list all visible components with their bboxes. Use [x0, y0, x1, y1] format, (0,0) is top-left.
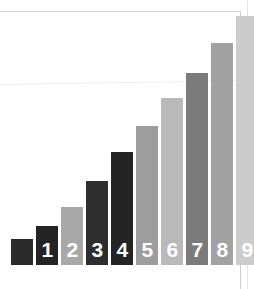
bar-5[interactable]: 5	[136, 126, 158, 265]
bar-label: 2	[66, 239, 77, 265]
bar-7[interactable]: 7	[186, 73, 208, 265]
bar-6[interactable]: 6	[161, 98, 183, 265]
bar-9[interactable]: 9	[236, 16, 254, 265]
bar-label: 6	[166, 239, 177, 265]
bar-label: 4	[116, 239, 127, 265]
bar-label: 8	[216, 239, 227, 265]
bar-2[interactable]: 2	[61, 207, 83, 265]
bar-8[interactable]: 8	[211, 43, 233, 265]
bar-label: 5	[141, 239, 152, 265]
bar-3[interactable]: 3	[86, 181, 108, 265]
bar-label: 9	[241, 239, 252, 265]
bar-label: 3	[91, 239, 102, 265]
bar-label: 1	[41, 239, 52, 265]
bar-chart-figure: 123456789	[0, 0, 254, 289]
plot-area: 123456789	[0, 0, 254, 289]
bar-label: 7	[191, 239, 202, 265]
bar-1[interactable]: 1	[36, 226, 58, 265]
bar-unlabeled[interactable]	[11, 239, 33, 265]
bar-4[interactable]: 4	[111, 152, 133, 265]
